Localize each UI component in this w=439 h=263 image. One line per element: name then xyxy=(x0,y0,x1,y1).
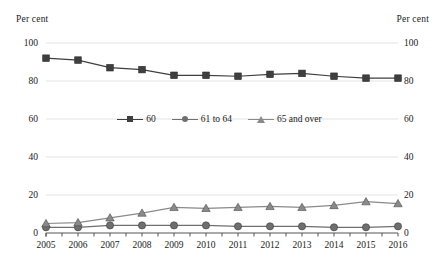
data-point xyxy=(202,222,209,229)
y-axis-tick-label-left: 20 xyxy=(12,190,38,200)
series-line xyxy=(46,225,398,227)
series-line xyxy=(46,58,398,78)
y-axis-tick-label-left: 80 xyxy=(12,76,38,86)
legend-item-65-and-over[interactable]: 65 and over xyxy=(248,114,322,124)
legend-marker-square-icon xyxy=(117,114,143,124)
y-axis-tick-label-right: 80 xyxy=(404,76,430,86)
data-point xyxy=(235,73,242,80)
x-axis-tick-label: 2015 xyxy=(357,240,376,250)
data-point xyxy=(138,222,145,229)
data-point xyxy=(330,224,337,231)
y-axis-tick-label-left: 0 xyxy=(12,228,38,238)
data-point xyxy=(107,64,114,71)
y-axis-tick-label-left: 100 xyxy=(12,38,38,48)
data-point xyxy=(331,73,338,80)
data-point xyxy=(266,223,273,230)
data-point xyxy=(362,224,369,231)
x-axis-tick-label: 2014 xyxy=(325,240,344,250)
x-axis-tick-label: 2012 xyxy=(261,240,280,250)
x-axis-tick-label: 2007 xyxy=(101,240,120,250)
y-axis-tick-label-right: 40 xyxy=(404,152,430,162)
x-axis-tick-label: 2011 xyxy=(229,240,248,250)
data-point xyxy=(395,75,402,82)
legend-marker-triangle-icon xyxy=(248,114,274,124)
data-point xyxy=(43,55,50,62)
plot-area xyxy=(0,0,439,263)
legend-item-60[interactable]: 60 xyxy=(117,114,156,124)
data-point xyxy=(75,57,82,64)
x-axis-tick-label: 2006 xyxy=(69,240,88,250)
y-axis-tick-label-right: 20 xyxy=(404,190,430,200)
legend-item-61-to-64[interactable]: 61 to 64 xyxy=(172,114,232,124)
data-point xyxy=(267,71,274,78)
x-axis-tick-label: 2013 xyxy=(293,240,312,250)
legend-marker-circle-icon xyxy=(172,114,198,124)
x-axis-tick-label: 2016 xyxy=(389,240,408,250)
x-axis-tick-label: 2010 xyxy=(197,240,216,250)
data-point xyxy=(106,222,113,229)
legend-label-60: 60 xyxy=(146,114,156,124)
data-point xyxy=(139,66,146,73)
y-axis-tick-label-left: 40 xyxy=(12,152,38,162)
series-line xyxy=(46,202,398,224)
y-axis-tick-label-right: 100 xyxy=(404,38,430,48)
data-point xyxy=(203,72,210,79)
x-axis-tick-label: 2009 xyxy=(165,240,184,250)
chart-container: Per cent Per cent 020406080100 020406080… xyxy=(0,0,439,263)
legend-label-61-to-64: 61 to 64 xyxy=(201,114,232,124)
x-axis-tick-label: 2008 xyxy=(133,240,152,250)
data-point xyxy=(394,223,401,230)
data-point xyxy=(170,222,177,229)
data-point xyxy=(362,198,370,205)
data-point xyxy=(363,75,370,82)
legend-label-65-and-over: 65 and over xyxy=(277,114,322,124)
series-65-and-over xyxy=(42,198,402,227)
y-axis-tick-label-right: 0 xyxy=(404,228,430,238)
data-point xyxy=(234,223,241,230)
data-point xyxy=(298,223,305,230)
data-point xyxy=(171,72,178,79)
series-61-to-64 xyxy=(42,222,401,231)
chart-legend: 60 61 to 64 65 and over xyxy=(0,114,439,124)
data-point xyxy=(299,70,306,77)
x-axis-tick-label: 2005 xyxy=(37,240,56,250)
series-60 xyxy=(43,55,402,82)
